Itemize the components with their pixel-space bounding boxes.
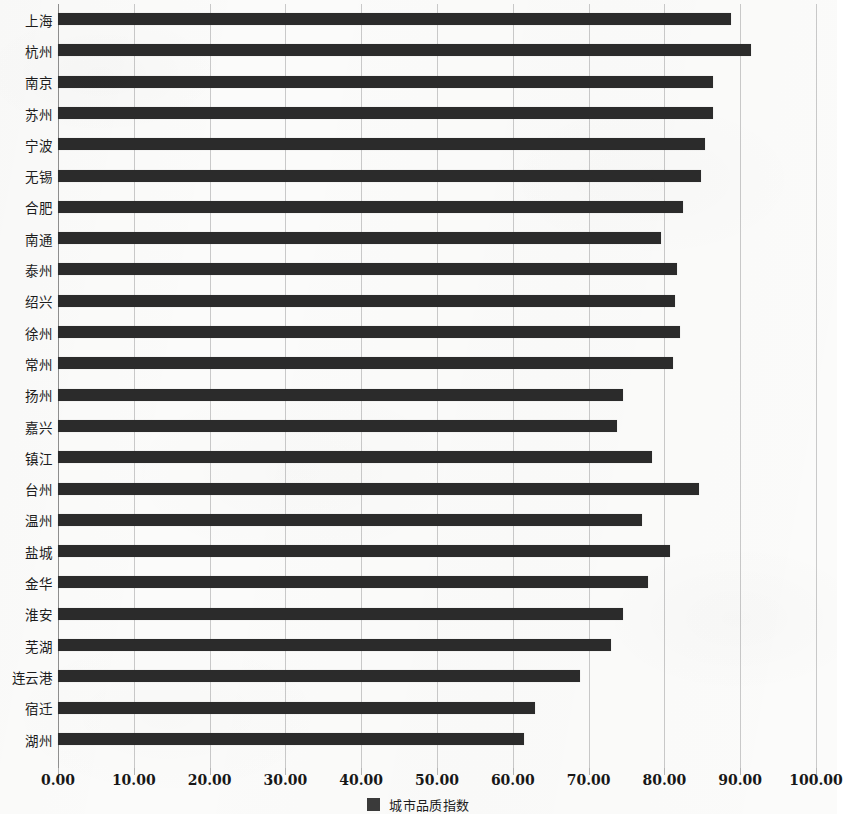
category-label-扬州: 扬州 (0, 380, 52, 411)
x-tick-label-80.00: 80.00 (642, 772, 686, 788)
category-label-徐州: 徐州 (0, 317, 52, 348)
bar-row (58, 380, 816, 411)
bar-row (58, 505, 816, 536)
bar-温州[interactable] (58, 514, 642, 526)
bar-无锡[interactable] (58, 170, 701, 182)
category-label-苏州: 苏州 (0, 98, 52, 129)
category-axis: 上海杭州南京苏州宁波无锡合肥南通泰州绍兴徐州常州扬州嘉兴镇江台州温州盐城金华淮安… (0, 4, 52, 768)
bar-芜湖[interactable] (58, 639, 611, 651)
bar-row (58, 567, 816, 598)
bar-金华[interactable] (58, 576, 648, 588)
bar-row (58, 192, 816, 223)
x-tick-label-60.00: 60.00 (491, 772, 535, 788)
bar-湖州[interactable] (58, 733, 524, 745)
category-label-杭州: 杭州 (0, 35, 52, 66)
bar-row (58, 411, 816, 442)
bar-连云港[interactable] (58, 670, 580, 682)
category-label-上海: 上海 (0, 4, 52, 35)
bar-苏州[interactable] (58, 107, 713, 119)
bar-row (58, 317, 816, 348)
bar-row (58, 599, 816, 630)
x-tick-label-20.00: 20.00 (188, 772, 232, 788)
category-label-连云港: 连云港 (0, 661, 52, 692)
bar-徐州[interactable] (58, 326, 680, 338)
bar-row (58, 630, 816, 661)
category-label-金华: 金华 (0, 567, 52, 598)
category-label-泰州: 泰州 (0, 254, 52, 285)
bar-上海[interactable] (58, 13, 731, 25)
category-label-宿迁: 宿迁 (0, 693, 52, 724)
bar-row (58, 661, 816, 692)
category-label-芜湖: 芜湖 (0, 630, 52, 661)
bar-row (58, 724, 816, 755)
bar-row (58, 693, 816, 724)
x-tick-label-40.00: 40.00 (339, 772, 383, 788)
bar-row (58, 442, 816, 473)
x-tick-label-50.00: 50.00 (415, 772, 459, 788)
bar-扬州[interactable] (58, 389, 623, 401)
bar-row (58, 161, 816, 192)
bar-row (58, 129, 816, 160)
category-label-盐城: 盐城 (0, 536, 52, 567)
category-label-南京: 南京 (0, 67, 52, 98)
bar-盐城[interactable] (58, 545, 670, 557)
category-label-镇江: 镇江 (0, 442, 52, 473)
bar-row (58, 67, 816, 98)
bar-宿迁[interactable] (58, 702, 535, 714)
bar-杭州[interactable] (58, 44, 751, 56)
bar-台州[interactable] (58, 483, 699, 495)
x-tick-label-10.00: 10.00 (112, 772, 156, 788)
chart-legend: 城市品质指数 (0, 795, 837, 814)
bar-row (58, 286, 816, 317)
category-label-常州: 常州 (0, 348, 52, 379)
legend-swatch-icon (367, 798, 380, 811)
x-axis-tick-labels: 0.0010.0020.0030.0040.0050.0060.0070.008… (0, 772, 837, 794)
bar-绍兴[interactable] (58, 295, 675, 307)
category-label-无锡: 无锡 (0, 161, 52, 192)
category-label-南通: 南通 (0, 223, 52, 254)
x-tick-label-70.00: 70.00 (567, 772, 611, 788)
bar-row (58, 536, 816, 567)
category-label-绍兴: 绍兴 (0, 286, 52, 317)
category-label-合肥: 合肥 (0, 192, 52, 223)
category-label-湖州: 湖州 (0, 724, 52, 755)
x-tick-label-90.00: 90.00 (718, 772, 762, 788)
bar-淮安[interactable] (58, 608, 623, 620)
bar-常州[interactable] (58, 357, 673, 369)
plot-area (58, 4, 816, 768)
category-label-嘉兴: 嘉兴 (0, 411, 52, 442)
bar-row (58, 35, 816, 66)
bar-合肥[interactable] (58, 201, 683, 213)
category-label-温州: 温州 (0, 505, 52, 536)
category-label-淮安: 淮安 (0, 599, 52, 630)
x-tick-label-30.00: 30.00 (263, 772, 307, 788)
category-label-宁波: 宁波 (0, 129, 52, 160)
x-tick-label-0.00: 0.00 (41, 772, 75, 788)
category-label-台州: 台州 (0, 474, 52, 505)
bar-row (58, 474, 816, 505)
bar-row (58, 223, 816, 254)
bar-镇江[interactable] (58, 451, 652, 463)
x-tick-label-100.00: 100.00 (789, 772, 843, 788)
bar-宁波[interactable] (58, 138, 705, 150)
bar-南京[interactable] (58, 76, 713, 88)
bar-嘉兴[interactable] (58, 420, 617, 432)
bar-泰州[interactable] (58, 263, 677, 275)
gridline-100.00 (816, 4, 817, 768)
bar-row (58, 348, 816, 379)
legend-label: 城市品质指数 (389, 795, 469, 814)
bar-row (58, 254, 816, 285)
bar-南通[interactable] (58, 232, 661, 244)
bar-row (58, 98, 816, 129)
bar-row (58, 4, 816, 35)
